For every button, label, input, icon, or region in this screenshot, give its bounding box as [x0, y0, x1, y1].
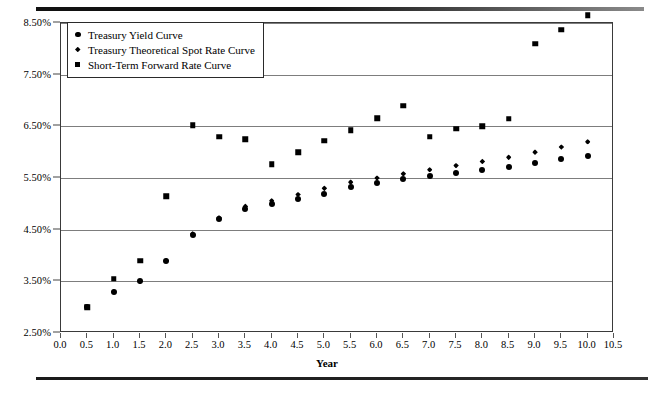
data-point-square — [295, 149, 301, 155]
data-point-square — [216, 134, 222, 140]
data-point-square — [85, 304, 91, 310]
x-axis-tick — [60, 333, 61, 338]
data-point-square — [585, 13, 591, 19]
y-axis-tick-label: 7.50% — [23, 68, 51, 79]
x-axis-tick — [481, 333, 482, 338]
x-axis-tick — [113, 333, 114, 338]
x-axis-tick — [560, 333, 561, 338]
data-point-square — [348, 128, 354, 134]
top-rule — [36, 7, 644, 11]
x-axis-tick-label: 0.0 — [53, 339, 66, 350]
x-axis-tick-label: 4.0 — [264, 339, 277, 350]
x-axis-tick-label: 8.5 — [501, 339, 514, 350]
legend-item[interactable]: Treasury Theoretical Spot Rate Curve — [75, 42, 257, 57]
x-axis-tick — [192, 333, 193, 338]
data-point-square — [322, 138, 328, 144]
gridline — [61, 230, 612, 231]
data-point-diamond — [480, 159, 486, 165]
data-point-square — [243, 137, 249, 143]
x-axis-tick-label: 4.5 — [290, 339, 303, 350]
data-point-circle — [374, 180, 380, 186]
x-axis-tick-label: 8.0 — [475, 339, 488, 350]
data-point-square — [137, 258, 143, 264]
x-axis-tick-label: 10.5 — [604, 339, 622, 350]
x-axis-tick — [271, 333, 272, 338]
y-axis-tick-label: 4.50% — [23, 223, 51, 234]
y-axis-tick — [53, 228, 60, 229]
x-axis-tick — [402, 333, 403, 338]
data-point-square — [111, 276, 117, 282]
x-axis-tick-label: 7.0 — [422, 339, 435, 350]
legend-item-label: Short-Term Forward Rate Curve — [88, 59, 231, 71]
legend-marker-diamond-icon — [75, 47, 88, 53]
y-axis-tick — [53, 332, 60, 333]
legend-marker-circle-icon — [75, 32, 88, 38]
x-axis-tick — [244, 333, 245, 338]
y-axis-tick — [53, 280, 60, 281]
data-point-square — [532, 41, 538, 47]
x-axis-tick-label: 9.5 — [554, 339, 567, 350]
legend-item[interactable]: Short-Term Forward Rate Curve — [75, 57, 257, 72]
x-axis: 0.00.51.01.52.02.53.03.54.04.55.05.56.06… — [60, 333, 613, 355]
data-point-square — [190, 123, 196, 129]
legend-item-label: Treasury Theoretical Spot Rate Curve — [88, 44, 255, 56]
x-axis-tick-label: 1.5 — [132, 339, 145, 350]
x-axis-tick-label: 10.0 — [577, 339, 595, 350]
x-axis-tick-label: 0.5 — [80, 339, 93, 350]
y-axis-tick — [53, 22, 60, 23]
x-axis-tick-label: 3.5 — [238, 339, 251, 350]
data-point-circle — [400, 176, 406, 182]
chart-legend: Treasury Yield CurveTreasury Theoretical… — [67, 22, 264, 78]
x-axis-tick — [165, 333, 166, 338]
x-axis-tick-label: 5.0 — [317, 339, 330, 350]
x-axis-tick-label: 6.0 — [369, 339, 382, 350]
x-axis-tick — [139, 333, 140, 338]
y-axis-tick-label: 8.50% — [23, 17, 51, 28]
data-point-square — [427, 134, 433, 140]
data-point-circle — [479, 167, 485, 173]
x-axis-tick — [429, 333, 430, 338]
data-point-square — [506, 116, 512, 122]
data-point-diamond — [532, 149, 538, 155]
y-axis-tick — [53, 125, 60, 126]
data-point-square — [269, 161, 275, 167]
data-point-square — [559, 27, 565, 33]
x-axis-tick-label: 6.5 — [396, 339, 409, 350]
x-axis-tick-label: 7.5 — [448, 339, 461, 350]
y-axis: 2.50%3.50%4.50%5.50%6.50%7.50%8.50% — [0, 22, 60, 332]
data-point-diamond — [559, 144, 565, 150]
x-axis-tick — [218, 333, 219, 338]
x-axis-title: Year — [0, 357, 654, 369]
x-axis-tick — [323, 333, 324, 338]
data-point-circle — [558, 156, 564, 162]
x-axis-tick — [350, 333, 351, 338]
data-point-circle — [427, 173, 433, 179]
x-axis-tick-label: 3.0 — [211, 339, 224, 350]
x-axis-tick-label: 9.0 — [527, 339, 540, 350]
data-point-diamond — [506, 155, 512, 161]
data-point-square — [374, 115, 380, 121]
data-point-square — [480, 124, 486, 130]
data-point-circle — [506, 164, 512, 170]
y-axis-tick-label: 2.50% — [23, 327, 51, 338]
gridline — [61, 281, 612, 282]
data-point-diamond — [585, 139, 591, 145]
x-axis-tick-label: 2.5 — [185, 339, 198, 350]
data-point-circle — [453, 170, 459, 176]
data-point-diamond — [453, 163, 459, 169]
x-axis-tick — [613, 333, 614, 338]
legend-item-label: Treasury Yield Curve — [88, 29, 183, 41]
data-point-circle — [532, 160, 538, 166]
x-axis-tick — [86, 333, 87, 338]
y-axis-tick — [53, 177, 60, 178]
x-axis-tick-label: 5.5 — [343, 339, 356, 350]
bottom-rule — [36, 377, 648, 380]
data-point-square — [164, 193, 170, 199]
legend-item[interactable]: Treasury Yield Curve — [75, 27, 257, 42]
y-axis-tick-label: 3.50% — [23, 275, 51, 286]
y-axis-tick-label: 6.50% — [23, 120, 51, 131]
x-axis-tick — [455, 333, 456, 338]
x-axis-tick — [587, 333, 588, 338]
y-axis-tick — [53, 73, 60, 74]
x-axis-tick-label: 1.0 — [106, 339, 119, 350]
